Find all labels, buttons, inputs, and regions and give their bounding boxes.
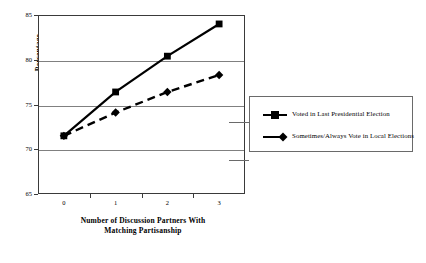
legend-item-0: Voted in Last Presidential Election xyxy=(250,108,412,122)
legend-connector-bottom xyxy=(229,160,249,161)
legend-label-1: Sometimes/Always Vote in Local Elections xyxy=(292,132,414,139)
x-tick-label: 0 xyxy=(49,199,79,206)
y-tick-label: 70 xyxy=(8,145,32,152)
x-tick-mark xyxy=(142,194,143,198)
data-point-marker xyxy=(215,71,223,79)
x-tick-label: 2 xyxy=(152,199,182,206)
legend-item-1: Sometimes/Always Vote in Local Elections xyxy=(250,130,412,144)
x-axis-title-line2: Matching Partisanship xyxy=(18,226,268,236)
data-point-marker xyxy=(112,89,119,96)
y-tick-label: 75 xyxy=(8,101,32,108)
data-point-marker xyxy=(216,21,223,28)
legend-connector-top xyxy=(229,122,249,123)
legend-marker-diamond-icon xyxy=(262,130,288,144)
chart-figure: Percentage 6570758085 0123 Number of Dis… xyxy=(0,0,426,263)
legend-label-0: Voted in Last Presidential Election xyxy=(292,110,390,117)
data-point-marker xyxy=(164,53,171,60)
x-tick-label: 3 xyxy=(204,199,234,206)
legend: Voted in Last Presidential Election Some… xyxy=(249,96,413,152)
y-tick-mark xyxy=(34,194,38,195)
series-line-0 xyxy=(64,24,219,136)
y-tick-label: 65 xyxy=(8,190,32,197)
data-series-layer xyxy=(38,15,245,194)
x-tick-mark xyxy=(90,194,91,198)
x-tick-mark xyxy=(193,194,194,198)
legend-marker-square-icon xyxy=(262,108,288,122)
series-line-1 xyxy=(64,75,219,136)
y-tick-label: 85 xyxy=(8,11,32,18)
data-point-marker xyxy=(111,108,119,116)
x-axis-title: Number of Discussion Partners With Match… xyxy=(18,216,268,236)
x-tick-label: 1 xyxy=(101,199,131,206)
data-point-marker xyxy=(163,88,171,96)
x-axis-title-line1: Number of Discussion Partners With xyxy=(18,216,268,226)
y-tick-label: 80 xyxy=(8,56,32,63)
